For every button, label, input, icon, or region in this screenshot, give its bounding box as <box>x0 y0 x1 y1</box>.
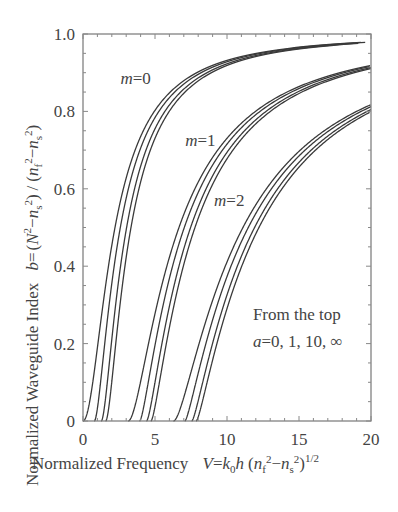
mode-curve <box>185 107 371 421</box>
y-tick-label: 1.0 <box>54 25 75 44</box>
y-tick-label: 0 <box>67 412 76 431</box>
x-tick-label: 5 <box>151 430 160 449</box>
x-axis-formula: 1/2 <box>305 452 319 464</box>
mode-label-m1: m=1 <box>185 131 215 150</box>
x-tick-label: 15 <box>291 430 308 449</box>
mode-curve <box>173 105 370 421</box>
x-tick-label: 20 <box>363 430 380 449</box>
y-tick-label: 0.4 <box>54 257 76 276</box>
x-axis-formula: n <box>281 454 290 473</box>
annotation-line1: From the top <box>253 305 341 324</box>
x-tick-label: 10 <box>219 430 236 449</box>
mode-label-m2: m=2 <box>214 191 244 210</box>
y-axis-formula: b <box>23 262 42 271</box>
y-axis-title-text: Normalized Waveguide Index <box>23 282 42 486</box>
y-axis-formula: / <box>23 185 42 190</box>
y-tick-label: 0.6 <box>54 180 75 199</box>
y-axis-formula: − <box>23 218 42 228</box>
y-tick-label: 0.8 <box>54 102 75 121</box>
x-axis-formula: h <box>236 454 245 473</box>
mode-curve <box>83 42 361 421</box>
y-tick-labels: 00.20.40.60.81.0 <box>54 25 76 431</box>
annotation-line2: a=0, 1, 10, ∞ <box>253 332 343 351</box>
x-axis-formula: − <box>271 454 281 473</box>
x-axis-title-text: Normalized Frequency <box>32 454 189 473</box>
dispersion-curves <box>83 42 371 421</box>
mode-curve <box>94 42 365 421</box>
x-axis-title: Normalized Frequency V=k0h(nf2−ns2)1/2 <box>32 452 319 475</box>
mode-curve <box>106 43 359 421</box>
x-tick-label: 0 <box>79 430 88 449</box>
mode-label-m0: m=0 <box>120 69 150 88</box>
waveguide-dispersion-chart: 05101520 00.20.40.60.81.0 m=0m=1m=2 From… <box>0 0 398 512</box>
y-axis-formula: ) <box>23 194 42 200</box>
y-axis-formula: − <box>23 149 42 159</box>
x-axis-formula: = <box>213 454 223 473</box>
x-tick-labels: 05101520 <box>79 430 380 449</box>
y-axis-formula: n <box>23 210 42 219</box>
y-axis-formula: n <box>23 140 42 149</box>
mode-curve <box>101 43 354 421</box>
y-axis-formula: n <box>23 168 42 177</box>
y-axis-formula: = <box>23 252 42 262</box>
y-axis-title: Normalized Waveguide Index b=(N2−ns2)/(n… <box>21 125 44 486</box>
x-axis-formula: n <box>254 454 263 473</box>
y-tick-label: 0.2 <box>54 335 75 354</box>
y-axis-formula: ) <box>23 125 42 131</box>
